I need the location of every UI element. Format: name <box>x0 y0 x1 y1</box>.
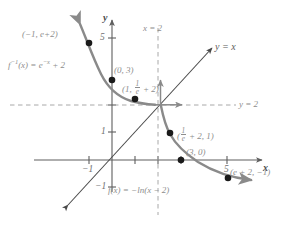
point-label-prefix: (1, <box>122 84 134 94</box>
point-label-0-3: (0, 3) <box>114 66 134 75</box>
equation-f-inverse: f−1(x) = e−x + 2 <box>8 61 65 70</box>
tick-label-y-neg1: −1 <box>95 182 106 192</box>
identity-line-label: y = x <box>215 42 236 52</box>
point-label-suffix: + 2, 1) <box>187 131 214 141</box>
point-label-neg1-e-plus-2: (−1, e+2) <box>22 30 58 39</box>
tick-label-y-1: 1 <box>101 127 106 137</box>
point-label-3-0: (3, 0) <box>186 148 206 157</box>
x-axis <box>34 156 262 164</box>
asymptote-horizontal-label: y = 2 <box>239 100 258 109</box>
point-label-e-plus-2-neg1: (e + 2, −1) <box>230 168 270 177</box>
point-label-suffix: + 2) <box>141 84 159 94</box>
data-point <box>86 40 93 47</box>
data-point <box>109 77 116 84</box>
y-axis <box>108 20 116 192</box>
tick-label-x-5: 5 <box>224 165 229 175</box>
equation-tail: + 2 <box>50 60 65 70</box>
point-label-1-inv-e-plus-2: (1, 1e + 2) <box>122 80 159 96</box>
equation-f: f(x) = −ln(x − 2) <box>108 186 169 195</box>
tick-label-x-neg1: −1 <box>82 165 93 175</box>
data-point <box>178 157 185 164</box>
asymptote-vertical-label: x = 2 <box>143 24 162 33</box>
data-point <box>167 130 174 137</box>
equation-exponent: −1 <box>11 58 19 65</box>
data-point <box>132 96 139 103</box>
tick-label-y-5: 5 <box>100 33 105 43</box>
fraction-one-over-e: 1e <box>181 127 187 143</box>
fraction-one-over-e: 1e <box>135 80 141 96</box>
graph-figure: y x 5 1 −1 −1 5 x = 2 y = 2 y = x (−1, e… <box>0 0 290 233</box>
equation-mid: (x) = e <box>18 60 43 70</box>
equation-exponent: −x <box>43 58 50 65</box>
y-axis-label: y <box>103 13 107 23</box>
point-label-inv-e-plus-2-1: (1e + 2, 1) <box>177 127 214 143</box>
